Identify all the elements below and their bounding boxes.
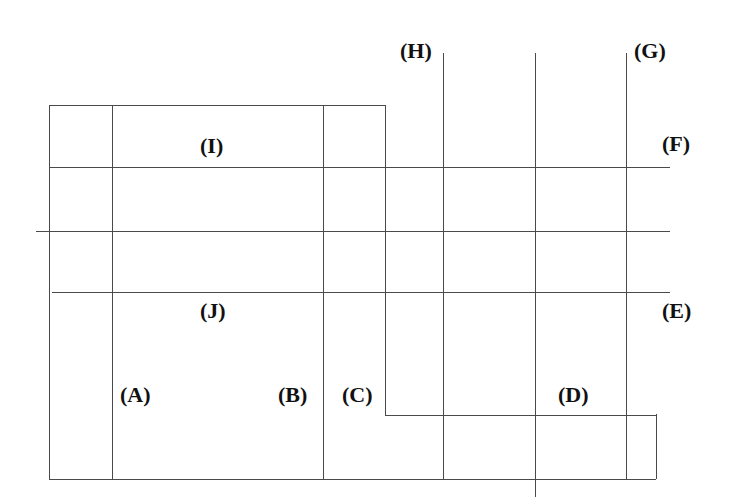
horizontal-line-h-f-line bbox=[49, 167, 670, 168]
vertical-line-v-c-right bbox=[385, 105, 386, 415]
vertical-line-v-left-edge bbox=[49, 105, 50, 479]
region-label-h: (H) bbox=[400, 40, 432, 62]
horizontal-line-h-e-line bbox=[52, 292, 670, 293]
region-label-d: (D) bbox=[558, 384, 589, 406]
vertical-line-v-a-left bbox=[112, 105, 113, 479]
technical-drawing-canvas: (H)(G)(I)(F)(J)(E)(A)(B)(C)(D) bbox=[0, 0, 735, 504]
region-label-g: (G) bbox=[634, 40, 666, 62]
region-label-j: (J) bbox=[200, 300, 226, 322]
horizontal-line-h-lower-step bbox=[385, 415, 656, 416]
region-label-f: (F) bbox=[662, 133, 690, 155]
region-label-c: (C) bbox=[342, 384, 373, 406]
horizontal-line-h-middle-line bbox=[36, 231, 670, 232]
vertical-line-v-right-edge bbox=[656, 414, 657, 479]
region-label-b: (B) bbox=[278, 384, 307, 406]
region-label-i: (I) bbox=[200, 135, 223, 157]
region-label-e: (E) bbox=[662, 300, 691, 322]
vertical-line-v-b-right bbox=[323, 105, 324, 479]
vertical-line-v-g-line bbox=[626, 53, 627, 479]
vertical-line-v-h-line bbox=[443, 53, 444, 479]
horizontal-line-h-bottom bbox=[49, 479, 656, 480]
region-label-a: (A) bbox=[120, 384, 151, 406]
vertical-line-v-center-long bbox=[535, 53, 536, 497]
horizontal-line-h-top-box bbox=[49, 105, 385, 106]
